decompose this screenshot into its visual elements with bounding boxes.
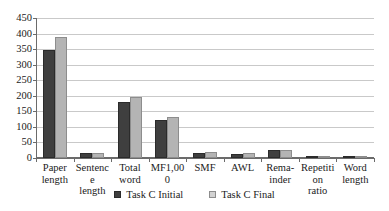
x-axis-label-line: Sentence	[75, 162, 111, 185]
y-axis-tick-label: 350	[0, 44, 32, 54]
bar-group	[186, 18, 224, 158]
y-axis-tick-label: 100	[0, 122, 32, 132]
bar-group	[224, 18, 262, 158]
bar-group	[149, 18, 187, 158]
bar	[155, 120, 167, 158]
legend-entry: Task C Initial	[114, 189, 183, 200]
bar	[268, 150, 280, 158]
x-axis-label-line: Word	[338, 162, 374, 174]
x-axis-label-line: word	[112, 174, 148, 186]
legend-label: Task C Initial	[126, 189, 183, 200]
bar-group	[111, 18, 149, 158]
legend-swatch-icon	[209, 191, 216, 198]
x-axis-label-line: length	[37, 174, 73, 186]
y-axis-tick-label: 50	[0, 137, 32, 147]
y-axis-tick-label: 250	[0, 75, 32, 85]
bar-chart-figure: 050100150200250300350400450 PaperlengthS…	[0, 0, 389, 211]
x-axis-label-line: SMF	[187, 162, 223, 174]
x-axis-tick-mark	[374, 158, 375, 162]
x-axis-label-line: Paper	[37, 162, 73, 174]
x-axis-label-line: MF1,000	[150, 162, 186, 185]
y-axis-tick-labels: 050100150200250300350400450	[0, 18, 32, 158]
bar-group	[261, 18, 299, 158]
x-axis-label-line: AWL	[225, 162, 261, 174]
y-axis-tick-label: 200	[0, 91, 32, 101]
bar-group	[74, 18, 112, 158]
legend-label: Task C Final	[221, 189, 275, 200]
y-axis-tick-label: 300	[0, 60, 32, 70]
x-axis-label-line: Repetition	[300, 162, 336, 185]
bar	[280, 150, 292, 158]
x-axis-label-line: Rema-	[262, 162, 298, 174]
y-axis-tick-label: 150	[0, 106, 32, 116]
bars-layer	[36, 18, 374, 158]
bar-group	[337, 18, 375, 158]
x-axis-label-line: inder	[262, 174, 298, 186]
bar	[118, 102, 130, 158]
y-axis-tick-label: 400	[0, 29, 32, 39]
y-axis-tick-label: 450	[0, 13, 32, 23]
bar	[55, 37, 67, 158]
x-axis-label-line: Total	[112, 162, 148, 174]
x-axis-label-line: length	[338, 174, 374, 186]
chart-legend: Task C InitialTask C Final	[0, 189, 389, 200]
bar-group	[36, 18, 74, 158]
bar-group	[299, 18, 337, 158]
bar	[167, 117, 179, 158]
legend-entry: Task C Final	[209, 189, 275, 200]
bar	[130, 97, 142, 158]
legend-swatch-icon	[114, 191, 121, 198]
bar	[43, 50, 55, 158]
y-axis-tick-label: 0	[0, 153, 32, 163]
